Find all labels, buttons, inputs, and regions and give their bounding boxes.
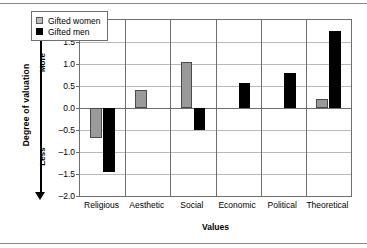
y-axis-tick-label: –1.5 (39, 169, 75, 179)
bar-social-men (194, 108, 206, 130)
bar-theoretical-women (316, 99, 328, 108)
x-axis-tick-label: Social (169, 200, 214, 210)
y-axis-title: Degree of valuation (21, 35, 31, 175)
plot-area: 2.01.51.00.50.0–0.5–1.0–1.5–2.0 (79, 19, 352, 197)
x-axis-tick-label: Theoretical (305, 200, 350, 210)
bar-aesthetic-women (135, 90, 147, 108)
bar-group (80, 20, 125, 196)
bar-religious-women (90, 108, 102, 138)
bar-group (261, 20, 306, 196)
y-axis-tick-label: 0.0 (39, 103, 75, 113)
top-divider (0, 3, 367, 4)
bar-group (216, 20, 261, 196)
bar-theoretical-men (329, 31, 341, 108)
legend-item-men: Gifted men (36, 26, 100, 37)
bar-group (170, 20, 215, 196)
bar-economic-men (239, 83, 251, 108)
legend-label-men: Gifted men (48, 27, 90, 37)
x-axis-tick-label: Aesthetic (124, 200, 169, 210)
bar-religious-men (103, 108, 115, 172)
y-axis-tick-label: –1.0 (39, 147, 75, 157)
legend-swatch-icon-men (36, 28, 43, 35)
y-axis-tick-label: –2.0 (39, 191, 75, 201)
x-axis-tick-label: Political (260, 200, 305, 210)
bar-group (306, 20, 351, 196)
y-axis-tick-label: 0.5 (39, 81, 75, 91)
bottom-divider (0, 243, 367, 244)
legend-item-women: Gifted women (36, 15, 100, 26)
legend-swatch-icon-women (36, 17, 43, 24)
x-axis-tick-label: Religious (79, 200, 124, 210)
bar-group (125, 20, 170, 196)
x-axis-tick-label: Economic (215, 200, 260, 210)
y-axis-tick-mark (76, 196, 80, 197)
bar-social-women (181, 62, 193, 108)
x-axis-tick-labels: ReligiousAestheticSocialEconomicPolitica… (79, 200, 352, 214)
legend-label-women: Gifted women (48, 16, 100, 26)
y-axis-tick-label: –0.5 (39, 125, 75, 135)
bar-political-men (284, 73, 296, 108)
chart-figure: Degree of valuation More Less 2.01.51.00… (0, 0, 367, 248)
chart-legend: Gifted women Gifted men (31, 11, 108, 41)
x-axis-title: Values (79, 222, 352, 232)
y-axis-tick-label: 1.0 (39, 59, 75, 69)
